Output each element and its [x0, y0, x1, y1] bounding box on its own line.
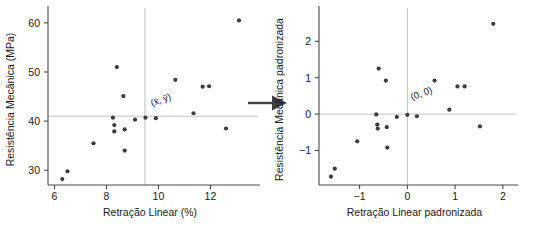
data-point: [432, 78, 436, 82]
point-annotation-label: (0, 0): [409, 84, 434, 102]
data-point: [91, 141, 95, 145]
y-axis-title: Resistência Mecânica (MPa): [4, 33, 16, 167]
data-point: [123, 149, 127, 153]
data-point: [133, 118, 137, 122]
data-point: [207, 84, 211, 88]
data-point: [173, 78, 177, 82]
data-point: [115, 65, 119, 69]
x-tick-label: −1: [354, 190, 366, 202]
x-tick-label: 6: [52, 190, 58, 202]
data-point: [376, 127, 380, 131]
data-point: [478, 124, 482, 128]
data-point: [447, 108, 451, 112]
left-scatter-panel: 68101230405060(x̄, ȳ)Retração Linear (%)…: [0, 0, 270, 227]
data-point: [385, 125, 389, 129]
x-tick-label: 0: [404, 190, 410, 202]
x-axis-title: Retração Linear (%): [103, 206, 197, 218]
data-point: [191, 111, 195, 115]
left-scatter-plot: 68101230405060(x̄, ȳ)Retração Linear (%)…: [0, 0, 270, 227]
data-point: [405, 113, 409, 117]
y-tick-label: 0: [305, 108, 311, 120]
data-point: [415, 114, 419, 118]
data-point: [65, 169, 69, 173]
data-point: [463, 84, 467, 88]
data-point: [375, 123, 379, 127]
y-tick-label: −1: [299, 144, 311, 156]
point-annotation-label: (x̄, ȳ): [149, 91, 173, 109]
data-point: [385, 145, 389, 149]
y-tick-label: 60: [28, 17, 40, 29]
x-axis-title: Retração Linear padronizada: [347, 206, 483, 218]
data-point: [143, 116, 147, 120]
data-point: [121, 94, 125, 98]
data-point: [112, 123, 116, 127]
data-point: [455, 84, 459, 88]
data-point: [111, 116, 115, 120]
data-point: [355, 139, 359, 143]
right-scatter-plot: −1012−1012(0, 0)Retração Linear padroniz…: [270, 0, 537, 227]
y-tick-label: 50: [28, 66, 40, 78]
x-tick-label: 8: [104, 190, 110, 202]
data-point: [395, 115, 399, 119]
data-point: [329, 175, 333, 179]
y-tick-label: 1: [305, 72, 311, 84]
y-tick-label: 2: [305, 35, 311, 47]
x-tick-label: 1: [452, 190, 458, 202]
data-point: [123, 127, 127, 131]
data-point: [384, 78, 388, 82]
x-tick-label: 12: [205, 190, 217, 202]
x-tick-label: 10: [153, 190, 165, 202]
data-point: [201, 85, 205, 89]
data-point: [112, 129, 116, 133]
data-point: [237, 18, 241, 22]
data-point: [491, 22, 495, 26]
data-point: [60, 177, 64, 181]
data-point: [377, 66, 381, 70]
x-tick-label: 2: [500, 190, 506, 202]
data-point: [374, 112, 378, 116]
right-scatter-panel: −1012−1012(0, 0)Retração Linear padroniz…: [270, 0, 537, 227]
data-point: [224, 126, 228, 130]
y-tick-label: 40: [28, 115, 40, 127]
data-point: [333, 167, 337, 171]
data-point: [154, 116, 158, 120]
standardization-scatter-figure: 68101230405060(x̄, ȳ)Retração Linear (%)…: [0, 0, 537, 227]
y-tick-label: 30: [28, 164, 40, 176]
y-axis-title: Resistência Mecânica padronizada: [273, 18, 285, 181]
